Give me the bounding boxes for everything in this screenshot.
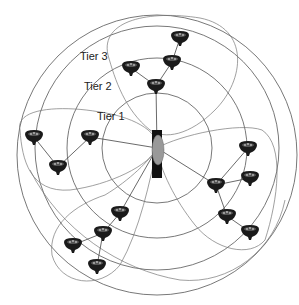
node-icon bbox=[241, 171, 259, 186]
node-icon bbox=[218, 209, 236, 224]
node-icon bbox=[171, 31, 189, 46]
tier-3-label: Tier 3 bbox=[80, 51, 108, 62]
node-icon bbox=[111, 206, 129, 221]
node-icon bbox=[64, 238, 82, 253]
node-icon bbox=[122, 61, 140, 76]
tier-network-diagram bbox=[0, 0, 299, 305]
node-icon bbox=[147, 79, 165, 94]
node-icon bbox=[241, 225, 259, 240]
tier-2-label: Tier 2 bbox=[84, 81, 112, 92]
node-icon bbox=[88, 259, 106, 274]
nodes bbox=[25, 31, 259, 274]
access-point-icon bbox=[152, 130, 164, 178]
node-icon bbox=[163, 55, 181, 70]
node-icon bbox=[94, 226, 112, 241]
range-loop-left bbox=[20, 109, 158, 191]
tier-1-label: Tier 1 bbox=[97, 111, 125, 122]
node-icon bbox=[49, 160, 67, 175]
links bbox=[34, 38, 250, 266]
node-icon bbox=[239, 141, 257, 156]
node-icon bbox=[207, 178, 225, 193]
node-icon bbox=[25, 130, 43, 145]
